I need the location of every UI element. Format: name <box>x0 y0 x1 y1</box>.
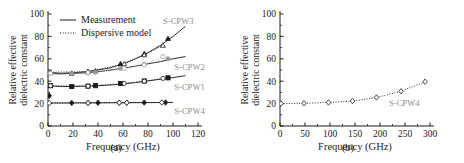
marker-square <box>70 84 74 88</box>
marker-circle <box>142 63 146 67</box>
panel-a-caption: (a) <box>0 142 232 153</box>
panel-a: 020406080100020406080100120S-CPW3S-CPW2S… <box>0 0 232 163</box>
marker-diamond <box>86 100 91 105</box>
marker-diamond <box>326 100 331 105</box>
y-axis-title-line2: dielectric constant <box>18 34 29 106</box>
curve-label: S-CPW3 <box>163 16 194 26</box>
x-tick-label: 50 <box>300 129 310 139</box>
y-axis-title-line2: dielectric constant <box>250 34 261 106</box>
marker-circle <box>161 76 165 80</box>
legend-label: Dispersive model <box>81 27 151 38</box>
curve-label: S-CPW1 <box>174 82 205 92</box>
y-tick-label: 40 <box>35 77 45 87</box>
x-tick-label: 200 <box>373 129 388 139</box>
x-tick-label: 20 <box>68 129 78 139</box>
x-tick-label: 120 <box>191 129 206 139</box>
marker-diamond <box>374 95 379 100</box>
marker-diamond <box>124 100 129 105</box>
x-tick-label: 100 <box>166 129 181 139</box>
panel-b: 020406080100050100150200250300S-CPW4Freq… <box>232 0 464 163</box>
x-tick-label: 60 <box>118 129 128 139</box>
y-tick-label: 0 <box>271 121 276 131</box>
curve-label: S-CPW2 <box>174 62 205 72</box>
marker-diamond <box>159 100 164 105</box>
marker-circle <box>161 54 165 58</box>
x-tick-label: 80 <box>143 129 153 139</box>
y-axis-title-line1: Relative effective <box>239 35 250 105</box>
legend-label: Measurement <box>81 14 136 25</box>
marker-circle <box>70 72 74 76</box>
x-tick-label: 0 <box>46 129 51 139</box>
marker-diamond <box>302 101 307 106</box>
y-tick-label: 20 <box>35 99 45 109</box>
marker-circle <box>86 84 90 88</box>
y-tick-label: 80 <box>35 32 45 42</box>
x-tick-label: 100 <box>323 129 338 139</box>
marker-diamond <box>399 89 404 94</box>
curve-label: S-CPW4 <box>389 98 420 108</box>
x-tick-label: 0 <box>278 129 283 139</box>
y-tick-label: 60 <box>267 54 277 64</box>
marker-circle <box>142 79 146 83</box>
marker-circle <box>48 84 52 88</box>
marker-diamond <box>279 101 284 106</box>
y-tick-label: 60 <box>35 54 45 64</box>
y-tick-label: 0 <box>39 121 44 131</box>
marker-circle <box>122 81 126 85</box>
marker-circle <box>122 66 126 70</box>
marker-square <box>166 76 170 80</box>
x-tick-label: 40 <box>93 129 103 139</box>
x-tick-label: 150 <box>348 129 363 139</box>
marker-circle <box>166 57 170 61</box>
marker-diamond <box>117 100 122 105</box>
x-tick-label: 250 <box>398 129 413 139</box>
series-line <box>48 57 186 74</box>
y-tick-label: 100 <box>262 9 277 19</box>
marker-circle <box>48 71 52 75</box>
y-axis-title-line1: Relative effective <box>7 35 18 105</box>
y-tick-label: 80 <box>267 32 277 42</box>
y-tick-label: 20 <box>267 99 277 109</box>
figure-container: 020406080100020406080100120S-CPW3S-CPW2S… <box>0 0 464 163</box>
marker-circle <box>86 71 90 75</box>
marker-diamond <box>423 79 428 84</box>
curve-label: S-CPW4 <box>174 106 205 116</box>
marker-diamond <box>350 98 355 103</box>
panel-b-caption: (b) <box>232 142 464 153</box>
y-tick-label: 100 <box>30 9 45 19</box>
x-tick-label: 300 <box>423 129 438 139</box>
panel-a-plot: 020406080100020406080100120S-CPW3S-CPW2S… <box>0 0 232 163</box>
panel-b-plot: 020406080100050100150200250300S-CPW4Freq… <box>232 0 464 163</box>
y-tick-label: 40 <box>267 77 277 87</box>
